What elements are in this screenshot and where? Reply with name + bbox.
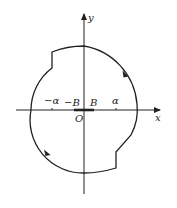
label-pos-alpha: α bbox=[112, 95, 119, 106]
label-pos-B: B bbox=[89, 97, 97, 108]
arrow-icon-lower-left bbox=[44, 150, 51, 157]
origin-label: O bbox=[75, 113, 83, 124]
x-axis-label: x bbox=[155, 112, 161, 123]
label-neg-alpha: −α bbox=[44, 95, 59, 106]
y-axis-label: y bbox=[87, 12, 94, 23]
contour-diagram: y x O −α −B B α bbox=[0, 0, 177, 208]
label-neg-B: −B bbox=[64, 97, 80, 108]
